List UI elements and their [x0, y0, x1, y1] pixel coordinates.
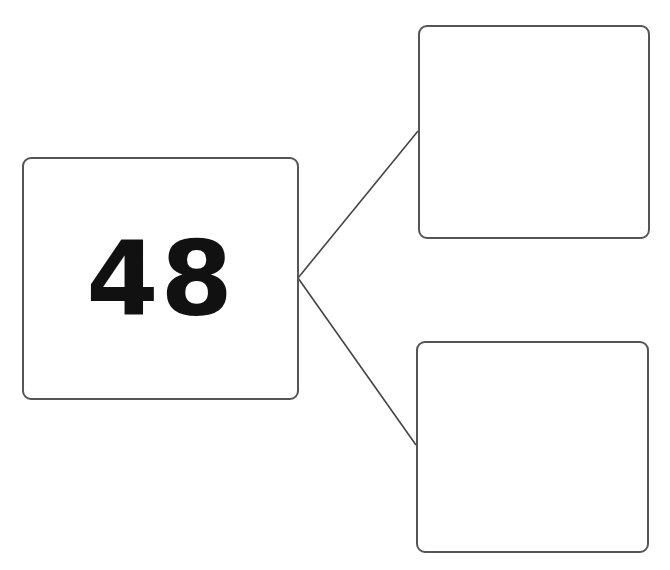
part-box-bottom[interactable]: [416, 341, 649, 553]
connector-bottom: [298, 278, 416, 445]
connector-top: [298, 131, 418, 278]
whole-box: 48: [22, 157, 299, 400]
whole-value: 48: [86, 227, 235, 331]
part-box-top[interactable]: [418, 25, 650, 239]
